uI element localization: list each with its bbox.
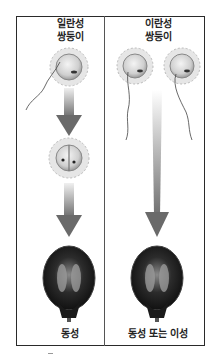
uterus-fetus-icon <box>43 246 95 322</box>
arrow-down-icon <box>145 90 169 237</box>
right-result-label: 동성 또는 이성 <box>118 327 198 340</box>
egg-icon <box>164 48 200 84</box>
left-result-label: 동성 <box>40 327 100 340</box>
uterus-fetus-icon <box>131 246 183 322</box>
arrow-down-icon <box>56 88 82 136</box>
arrow-down-icon <box>56 183 82 237</box>
footnote-mark <box>48 353 53 357</box>
diagram-illustration <box>0 0 216 359</box>
egg-icon <box>50 48 88 86</box>
dividing-zygote-icon <box>49 138 89 178</box>
egg-icon <box>117 48 153 84</box>
